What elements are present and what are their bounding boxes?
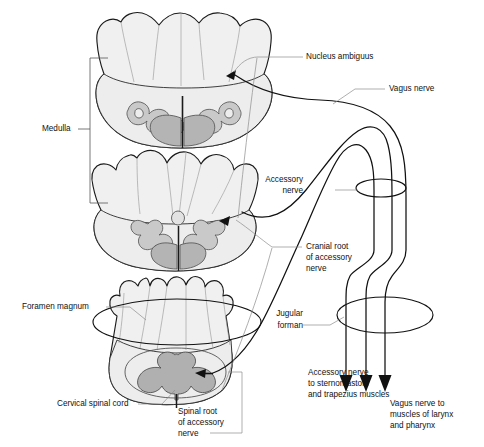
label-cervical-spinal-cord: Cervical spinal cord: [57, 399, 129, 408]
label-cranial-root-line1: Cranial root: [306, 242, 349, 251]
cervical-spinal-cord-cross-section: [93, 276, 261, 408]
label-accessory-target-line3: and trapezius muscles: [308, 390, 389, 399]
label-nucleus-ambiguus: Nucleus ambiguus: [306, 52, 373, 61]
label-accessory-nerve-line1: Accessory: [265, 175, 304, 184]
label-vagus-nerve: Vagus nerve: [389, 84, 435, 93]
label-vagus-target-line3: and pharynx: [390, 421, 435, 430]
label-accessory-target-line1: Accessory nerve: [308, 368, 369, 377]
lower-medulla-central-canal: [172, 211, 185, 225]
upper-medulla-cross-section: [96, 12, 272, 148]
anatomical-diagram: Medulla Nucleus ambiguus Vagus nerve Acc…: [0, 0, 484, 447]
lower-medulla-cross-section: [92, 150, 258, 271]
label-spinal-root-line1: Spinal root: [178, 407, 218, 416]
label-cranial-root-line3: nerve: [306, 264, 327, 273]
label-vagus-target-line1: Vagus nerve to: [390, 399, 445, 408]
label-foramen-magnum: Foramen magnum: [22, 302, 89, 311]
accessory-nerve-ellipse: [356, 179, 406, 197]
label-accessory-nerve-line2: nerve: [283, 186, 304, 195]
label-vagus-target-line2: muscles of larynx: [390, 410, 453, 419]
label-cranial-root-line2: of accessory: [306, 253, 353, 262]
label-spinal-root-line3: nerve: [178, 429, 199, 438]
label-jugular-foramen-line1: Jugular: [276, 309, 303, 318]
label-medulla: Medulla: [42, 124, 71, 133]
label-accessory-target-line2: to sternomastoid: [308, 379, 369, 388]
diagram-canvas: Medulla Nucleus ambiguus Vagus nerve Acc…: [0, 0, 484, 447]
label-jugular-foramen-line2: forman: [278, 321, 304, 330]
label-spinal-root-line2: of accessory: [178, 418, 225, 427]
